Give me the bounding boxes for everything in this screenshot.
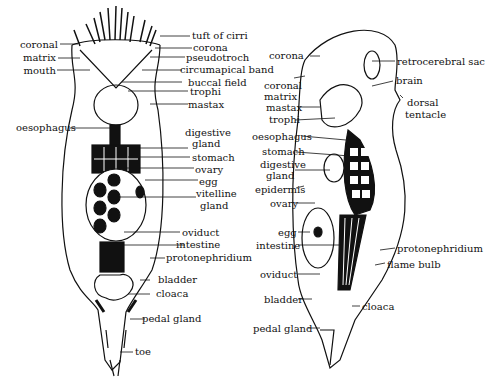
label-bladder-right: bladder <box>264 294 303 305</box>
label-digestive-right: digestive <box>260 159 306 170</box>
label-circumapical-band: circumapical band <box>180 64 274 75</box>
label-digestive: digestive <box>185 127 231 138</box>
label-pseudotroch: pseudotroch <box>186 52 249 63</box>
label-retrocerebral-sac: retrocerebral sac <box>397 56 485 67</box>
label-ovary-right: ovary <box>270 198 298 209</box>
label-flame-bulb: flame bulb <box>387 259 441 270</box>
label-matrix-right: matrix <box>264 91 297 102</box>
right-digestive-gland <box>324 154 344 182</box>
label-intestine: intestine <box>176 239 220 250</box>
label-egg: egg <box>199 176 218 187</box>
label-corona-right: corona <box>269 50 304 61</box>
label-vitelline: vitelline <box>196 188 237 199</box>
left-intestine <box>100 242 124 272</box>
label-mouth: mouth <box>4 65 56 76</box>
label-tentacle: tentacle <box>405 109 446 120</box>
retrocerebral-sac <box>364 51 380 79</box>
right-ovary <box>302 208 334 268</box>
label-oviduct-right: oviduct <box>260 269 297 280</box>
label-gland-right: gland <box>266 170 294 181</box>
right-intestine <box>338 215 366 290</box>
label-cloaca: cloaca <box>156 288 188 299</box>
label-intestine-right: intestine <box>256 240 300 251</box>
label-epidermis: epidermis <box>255 184 305 195</box>
label-brain: brain <box>396 75 423 86</box>
label-toe: toe <box>135 346 151 357</box>
left-oesophagus <box>110 125 120 147</box>
label-protonephridium: protonephridium <box>166 252 252 263</box>
label-oesophagus-right: oesophagus <box>252 131 312 142</box>
label-stomach-right: stomach <box>262 146 305 157</box>
label-trophi-right: trophi <box>269 114 300 125</box>
label-mastax-right: mastax <box>266 102 302 113</box>
label-digestive-gland: gland <box>192 138 220 149</box>
label-oesophagus: oesophagus <box>16 122 76 133</box>
label-vitelline-gland: gland <box>200 200 228 211</box>
label-egg-right: egg <box>278 227 297 238</box>
label-trophi: trophi <box>190 86 221 97</box>
label-cloaca-right: cloaca <box>362 301 394 312</box>
label-ovary: ovary <box>195 164 223 175</box>
tuft-of-cirri <box>74 6 156 46</box>
label-oviduct: oviduct <box>182 227 219 238</box>
label-bladder: bladder <box>158 274 197 285</box>
label-protonephridium-right: protonephridium <box>397 243 483 254</box>
label-pedal-gland-right: pedal gland <box>253 323 312 334</box>
right-stomach <box>344 130 374 215</box>
label-coronal-right: coronal <box>264 80 302 91</box>
label-pedal-gland: pedal gland <box>142 313 201 324</box>
label-matrix: matrix <box>4 52 56 63</box>
label-mastax: mastax <box>188 99 224 110</box>
right-mastax <box>320 85 362 127</box>
label-tuft-of-cirri: tuft of cirri <box>192 30 248 41</box>
left-bladder <box>95 274 133 300</box>
label-coronal: coronal <box>4 39 58 50</box>
label-dorsal: dorsal <box>407 97 439 108</box>
label-stomach: stomach <box>192 152 235 163</box>
